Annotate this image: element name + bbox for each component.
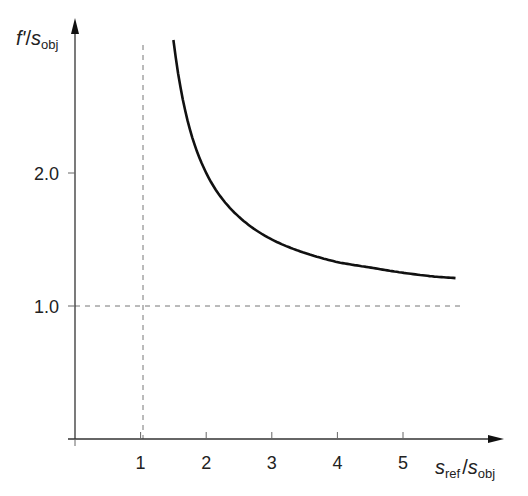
y-tick-label: 1.0 bbox=[34, 297, 59, 317]
data-curve bbox=[173, 40, 455, 278]
chart: 12345 1.02.0 f'/sobj sref/sobj bbox=[0, 0, 528, 496]
x-axis-arrow-icon bbox=[488, 435, 504, 443]
x-ticks: 12345 bbox=[75, 432, 408, 473]
x-tick-label: 4 bbox=[332, 453, 342, 473]
y-tick-label: 2.0 bbox=[34, 164, 59, 184]
x-tick-label: 3 bbox=[267, 453, 277, 473]
x-tick-label: 5 bbox=[398, 453, 408, 473]
y-ticks: 1.02.0 bbox=[34, 164, 75, 317]
x-tick-label: 1 bbox=[136, 453, 146, 473]
x-axis-label: sref/sobj bbox=[435, 456, 495, 481]
y-axis-arrow-icon bbox=[71, 18, 79, 34]
x-tick-label: 2 bbox=[201, 453, 211, 473]
y-axis-label: f'/sobj bbox=[16, 27, 58, 52]
